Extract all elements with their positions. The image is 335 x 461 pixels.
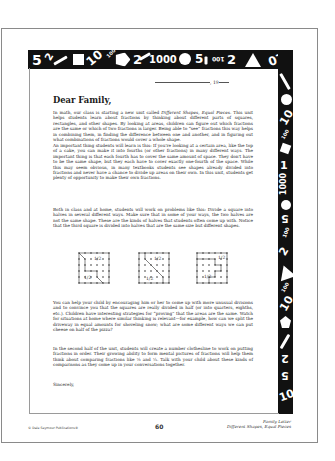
unit-title: Different Shapes, Equal Pieces. bbox=[161, 110, 231, 115]
numeral-glyph: 10 bbox=[84, 50, 105, 68]
text: This unit helps students learn about fra… bbox=[53, 110, 253, 142]
year-blank bbox=[219, 82, 229, 83]
paragraph-how-to-help: You can help your child by encouraging h… bbox=[53, 300, 253, 333]
text: An important thing students will learn i… bbox=[53, 143, 253, 181]
triangle-icon bbox=[278, 263, 293, 282]
footer-title-line-2: Different Shapes, Equal Pieces bbox=[227, 424, 291, 429]
numeral-glyph: 100 bbox=[280, 282, 290, 294]
numeral-glyph: 1 bbox=[280, 160, 288, 171]
pencil-icon bbox=[279, 73, 291, 90]
circle-icon bbox=[281, 200, 291, 210]
geoboard-figures: 1/2 1/2 1/2 1/2 1/2 1/2 bbox=[76, 250, 236, 294]
numeral-glyph: 2 bbox=[278, 245, 291, 257]
date-field: , 19 bbox=[155, 80, 235, 85]
paragraph-halves-problem: Both in class and at home, students will… bbox=[53, 207, 253, 229]
pencil-icon bbox=[53, 55, 67, 65]
fraction-label: 1/2 bbox=[218, 255, 225, 260]
pentagon-icon bbox=[280, 316, 291, 328]
numeral-glyph: 100 bbox=[106, 50, 117, 59]
fraction-label: 1/2 bbox=[84, 275, 91, 280]
numeral-glyph: 5 bbox=[32, 53, 42, 67]
fraction-label: 1/2 bbox=[154, 256, 161, 261]
numeral-glyph: 2 bbox=[281, 353, 289, 364]
numeral-glyph: 10 bbox=[278, 108, 293, 127]
pencil-icon bbox=[280, 334, 291, 349]
decorative-number-border-right: 10 100 1 1000 5 100 2 100 10 2 5 10 bbox=[278, 50, 293, 414]
geoboard-figure-1: 1/2 1/2 bbox=[76, 250, 112, 286]
numeral-glyph: 5 bbox=[281, 213, 289, 224]
fraction-label: 1/2 bbox=[94, 256, 101, 261]
square-icon bbox=[73, 54, 84, 65]
numeral-glyph: 5 bbox=[195, 53, 203, 65]
paragraph-intro: In math, our class is starting a new uni… bbox=[53, 110, 253, 181]
circle-icon bbox=[281, 94, 292, 105]
year-prefix: , 19 bbox=[210, 80, 219, 85]
date-blank bbox=[155, 82, 210, 83]
footer-title: Family Letter Different Shapes, Equal Pi… bbox=[227, 419, 291, 430]
fraction-label: 1/2 bbox=[204, 274, 211, 279]
circle-icon bbox=[179, 53, 191, 65]
copyright-notice: © Dale Seymour Publications® bbox=[28, 426, 78, 430]
page-number: 60 bbox=[155, 423, 163, 430]
square-icon bbox=[280, 143, 292, 155]
numeral-glyph: 5 bbox=[281, 370, 289, 381]
numeral-glyph: 100 bbox=[282, 227, 290, 239]
triangle-icon bbox=[245, 53, 261, 67]
numeral-glyph: 2 bbox=[227, 53, 236, 66]
pentagon-icon bbox=[116, 53, 131, 67]
decorative-number-border-top: 5 2 10 100 2 1000 5 100 2 10 2 bbox=[28, 50, 293, 69]
geoboard-figure-2: 1/2 1/2 bbox=[136, 250, 172, 286]
numeral-glyph: 1000 bbox=[280, 173, 288, 195]
letter-closing: Sincerely, bbox=[53, 382, 74, 387]
text: In math, our class is starting a new uni… bbox=[53, 110, 161, 115]
geoboard-figure-3: 1/2 1/2 bbox=[194, 250, 230, 286]
letter-greeting: Dear Family, bbox=[53, 95, 111, 105]
numeral-glyph: 10 bbox=[278, 388, 293, 404]
numeral-glyph: 100 bbox=[280, 129, 290, 141]
pencil-icon bbox=[205, 57, 208, 65]
numeral-glyph: 1000 bbox=[149, 55, 177, 65]
numeral-glyph: 2 bbox=[43, 51, 55, 62]
fraction-label: 1/2 bbox=[146, 276, 153, 281]
numeral-glyph: 10 bbox=[278, 294, 293, 313]
numeral-glyph: 100 bbox=[212, 56, 225, 62]
paragraph-second-half: In the second half of the unit, students… bbox=[53, 346, 253, 368]
